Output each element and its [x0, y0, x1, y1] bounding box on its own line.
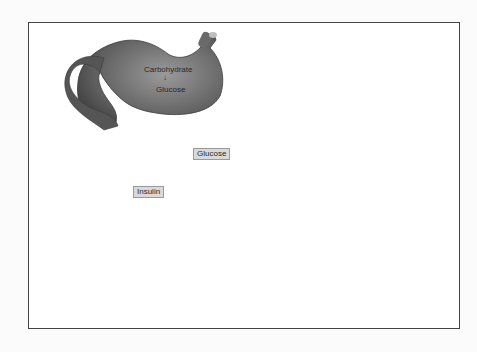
- insulin-label: Insulin: [133, 186, 164, 198]
- illustration: [0, 0, 477, 352]
- diagram-canvas: Carbohydrate ↓ Glucose Glucose Insulin: [0, 0, 477, 352]
- carbohydrate-label: Carbohydrate: [144, 66, 192, 74]
- glucose-vessel-label: Glucose: [193, 148, 230, 160]
- down-arrow-icon: ↓: [163, 74, 167, 82]
- stomach: [65, 31, 223, 130]
- glucose-stomach-label: Glucose: [156, 86, 185, 94]
